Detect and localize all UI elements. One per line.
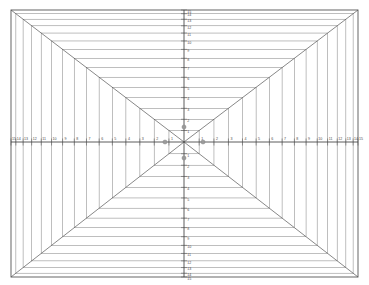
label-y-top-7: 7: [187, 67, 189, 71]
diagonal-br: [184, 142, 358, 277]
label-x-left-13: 13: [24, 137, 28, 141]
marker-up: [182, 125, 186, 129]
label-y-bottom-6: 6: [187, 208, 189, 212]
label-y-bottom-7: 7: [187, 218, 189, 222]
label-y-top-2: 2: [187, 119, 189, 123]
label-x-left-8: 8: [76, 137, 78, 141]
perspective-grid-svg: 1514131211109876543211234567891011121314…: [0, 0, 369, 285]
label-y-top-3: 3: [187, 108, 189, 112]
perspective-grid-canvas: 1514131211109876543211234567891011121314…: [0, 0, 369, 285]
label-y-bottom-2: 2: [187, 165, 189, 169]
label-x-left-10: 10: [53, 137, 57, 141]
label-y-top-10: 10: [187, 41, 191, 45]
label-y-top-14: 14: [187, 13, 191, 17]
label-y-bottom-11: 11: [187, 253, 191, 257]
label-x-right-10: 10: [318, 137, 322, 141]
label-x-right-2: 2: [216, 137, 218, 141]
label-y-bottom-12: 12: [187, 261, 191, 265]
label-y-bottom-9: 9: [187, 237, 189, 241]
label-y-bottom-3: 3: [187, 176, 189, 180]
label-y-top-13: 13: [187, 19, 191, 23]
label-x-right-6: 6: [271, 137, 273, 141]
label-y-top-5: 5: [187, 87, 189, 91]
label-x-left-14: 14: [17, 137, 21, 141]
label-y-bottom-4: 4: [187, 187, 189, 191]
label-y-top-6: 6: [187, 77, 189, 81]
label-x-left-9: 9: [65, 137, 67, 141]
marker-right: [201, 140, 205, 144]
label-y-top-1: 1: [187, 130, 189, 134]
label-x-right-5: 5: [258, 137, 260, 141]
label-y-bottom-10: 10: [187, 245, 191, 249]
label-y-top-8: 8: [187, 58, 189, 62]
label-x-right-4: 4: [244, 137, 246, 141]
label-y-bottom-15: 15: [187, 277, 191, 281]
diagonal-tr: [184, 10, 358, 142]
label-y-bottom-5: 5: [187, 198, 189, 202]
marker-left: [163, 140, 167, 144]
label-x-left-6: 6: [101, 137, 103, 141]
diagonal-bl: [11, 142, 184, 277]
label-y-top-11: 11: [187, 33, 191, 37]
label-x-right-3: 3: [230, 137, 232, 141]
marker-down: [182, 156, 186, 160]
label-x-left-3: 3: [142, 137, 144, 141]
label-x-left-12: 12: [33, 137, 37, 141]
label-y-bottom-13: 13: [187, 267, 191, 271]
label-x-right-9: 9: [308, 137, 310, 141]
label-x-right-7: 7: [284, 137, 286, 141]
label-y-top-12: 12: [187, 26, 191, 30]
label-x-right-15: 15: [359, 137, 363, 141]
label-y-bottom-1: 1: [187, 154, 189, 158]
label-x-left-1: 1: [171, 137, 173, 141]
label-x-left-5: 5: [114, 137, 116, 141]
label-x-right-12: 12: [338, 137, 342, 141]
label-y-top-9: 9: [187, 49, 189, 53]
label-x-right-11: 11: [329, 137, 333, 141]
label-x-left-7: 7: [88, 137, 90, 141]
label-x-left-2: 2: [156, 137, 158, 141]
label-x-right-13: 13: [347, 137, 351, 141]
label-y-top-4: 4: [187, 97, 189, 101]
label-x-right-8: 8: [296, 137, 298, 141]
label-x-right-14: 14: [354, 137, 358, 141]
label-x-left-15: 15: [12, 137, 16, 141]
diagonal-tl: [11, 10, 184, 142]
label-x-left-11: 11: [42, 137, 46, 141]
label-x-left-4: 4: [128, 137, 130, 141]
label-y-bottom-8: 8: [187, 227, 189, 231]
